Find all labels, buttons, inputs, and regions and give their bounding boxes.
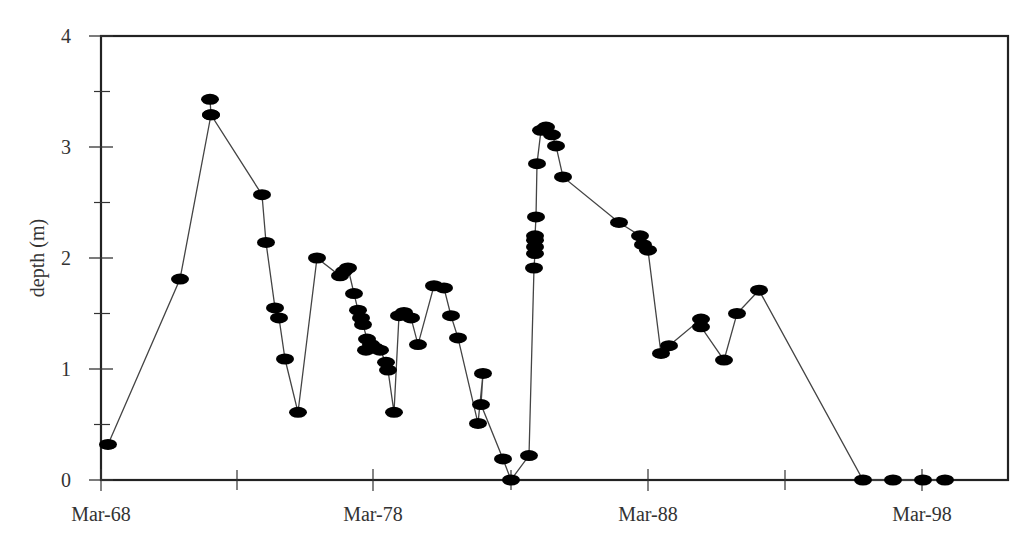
data-point-marker (469, 418, 487, 429)
y-tick-label: 4 (61, 25, 71, 47)
data-point-marker (99, 439, 117, 450)
data-point-marker (257, 237, 275, 248)
y-tick-label: 1 (61, 358, 71, 380)
data-point-marker (527, 211, 545, 222)
data-point-marker (528, 158, 546, 169)
data-point-marker (547, 140, 565, 151)
data-point-marker (171, 274, 189, 285)
y-tick-label: 2 (61, 247, 71, 269)
data-point-marker (914, 475, 932, 486)
data-point-marker (692, 321, 710, 332)
data-point-marker (502, 475, 520, 486)
data-point-marker (371, 345, 389, 356)
data-point-marker (660, 340, 678, 351)
data-point-marker (750, 285, 768, 296)
data-point-marker (442, 310, 460, 321)
data-point-marker (409, 339, 427, 350)
data-point-marker (345, 288, 363, 299)
data-point-marker (715, 355, 733, 366)
data-point-marker (474, 368, 492, 379)
data-point-marker (289, 407, 307, 418)
data-point-marker (253, 189, 271, 200)
data-point-marker (266, 302, 284, 313)
data-point-marker (385, 407, 403, 418)
data-point-marker (554, 171, 572, 182)
data-point-marker (202, 109, 220, 120)
data-point-marker (379, 365, 397, 376)
data-point-marker (472, 399, 490, 410)
data-point-marker (610, 217, 628, 228)
data-point-marker (520, 450, 538, 461)
chart-background (0, 0, 1031, 556)
data-point-marker (402, 312, 420, 323)
data-point-marker (728, 308, 746, 319)
data-point-marker (339, 262, 357, 273)
data-point-marker (308, 253, 326, 264)
data-point-marker (884, 475, 902, 486)
data-point-marker (936, 475, 954, 486)
x-tick-label: Mar-68 (71, 503, 131, 525)
depth-chart: 01234 Mar-68Mar-78Mar-88Mar-98 depth (m) (0, 0, 1031, 556)
x-tick-label: Mar-78 (343, 503, 403, 525)
data-point-marker (494, 453, 512, 464)
data-point-marker (639, 245, 657, 256)
data-point-marker (854, 475, 872, 486)
data-point-marker (543, 129, 561, 140)
data-point-marker (354, 319, 372, 330)
data-point-marker (449, 332, 467, 343)
y-tick-label: 0 (61, 469, 71, 491)
x-tick-label: Mar-98 (892, 503, 952, 525)
data-point-marker (525, 262, 543, 273)
x-tick-label: Mar-88 (618, 503, 678, 525)
y-axis-title: depth (m) (26, 219, 49, 297)
data-point-marker (201, 94, 219, 105)
data-point-marker (435, 282, 453, 293)
y-tick-label: 3 (61, 136, 71, 158)
data-point-marker (276, 354, 294, 365)
data-point-marker (270, 312, 288, 323)
data-point-marker (526, 230, 544, 241)
